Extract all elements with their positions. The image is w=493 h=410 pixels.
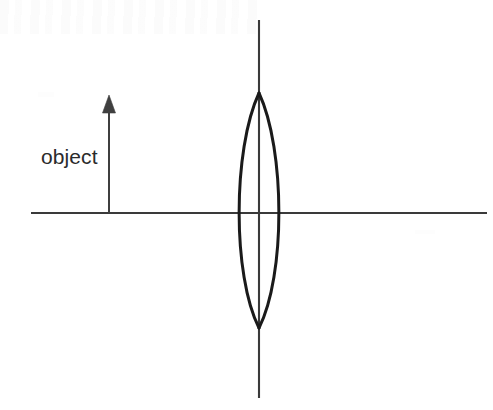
optics-diagram-canvas: object <box>0 0 493 410</box>
object-arrow-head-icon <box>103 95 116 113</box>
lens-left-arc <box>239 93 259 328</box>
ray-diagram-svg <box>0 0 493 410</box>
object-label: object <box>41 144 98 170</box>
lens-right-arc <box>259 93 279 328</box>
